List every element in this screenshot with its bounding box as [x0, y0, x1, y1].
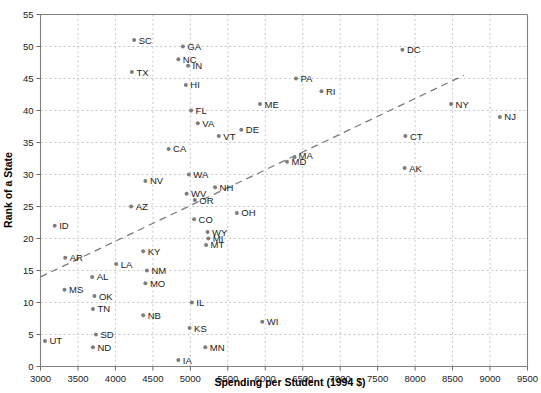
- point-marker: [145, 269, 149, 273]
- data-point[interactable]: KY: [141, 246, 161, 257]
- data-point[interactable]: WA: [187, 169, 209, 180]
- data-point[interactable]: SC: [132, 35, 152, 46]
- plot-svg: 0510152025303540455055300035004000450050…: [0, 0, 541, 393]
- data-point[interactable]: MT: [204, 239, 224, 250]
- data-point[interactable]: NJ: [498, 111, 516, 122]
- point-label: HI: [190, 79, 200, 90]
- point-marker: [294, 77, 298, 81]
- point-marker: [400, 48, 404, 52]
- x-tick-label: 3000: [30, 373, 51, 384]
- data-point[interactable]: ME: [258, 99, 279, 110]
- data-point[interactable]: DC: [400, 44, 420, 55]
- point-label: NJ: [504, 111, 516, 122]
- data-point[interactable]: PA: [294, 73, 313, 84]
- point-marker: [498, 115, 502, 119]
- data-point[interactable]: VA: [196, 118, 215, 129]
- data-point[interactable]: AL: [90, 271, 108, 282]
- point-marker: [193, 198, 197, 202]
- data-point[interactable]: MN: [203, 342, 224, 353]
- data-point[interactable]: AZ: [129, 201, 148, 212]
- data-point[interactable]: AK: [403, 163, 423, 174]
- point-marker: [132, 38, 136, 42]
- x-tick-label: 9000: [479, 373, 500, 384]
- point-label: CO: [199, 214, 213, 225]
- x-tick-label: 4000: [105, 373, 126, 384]
- data-point[interactable]: NB: [141, 310, 161, 321]
- point-marker: [91, 307, 95, 311]
- data-point[interactable]: CO: [192, 214, 213, 225]
- data-point[interactable]: OH: [235, 207, 256, 218]
- data-point[interactable]: HI: [184, 79, 200, 90]
- data-point[interactable]: LA: [114, 259, 133, 270]
- point-label: SD: [100, 329, 113, 340]
- x-tick-label: 4500: [142, 373, 163, 384]
- data-point[interactable]: SD: [94, 329, 114, 340]
- point-label: TX: [136, 67, 149, 78]
- point-marker: [143, 179, 147, 183]
- data-point[interactable]: DE: [239, 124, 259, 135]
- point-marker: [449, 102, 453, 106]
- data-point[interactable]: NY: [449, 99, 469, 110]
- point-label: NV: [150, 175, 164, 186]
- point-marker: [181, 45, 185, 49]
- point-label: FL: [196, 105, 207, 116]
- point-marker: [94, 333, 98, 337]
- data-point[interactable]: MS: [62, 284, 83, 295]
- point-label: MT: [211, 239, 225, 250]
- point-marker: [319, 89, 323, 93]
- point-label: NY: [456, 99, 470, 110]
- point-label: OR: [199, 195, 213, 206]
- point-label: UT: [49, 335, 62, 346]
- y-tick-label: 10: [23, 297, 34, 308]
- data-point[interactable]: NH: [213, 182, 233, 193]
- point-label: VT: [223, 131, 235, 142]
- data-point[interactable]: AR: [63, 252, 83, 263]
- data-point[interactable]: RI: [319, 86, 335, 97]
- point-marker: [91, 345, 95, 349]
- y-tick-label: 5: [28, 329, 33, 340]
- data-point[interactable]: TX: [130, 67, 149, 78]
- point-label: MA: [299, 150, 314, 161]
- data-point[interactable]: GA: [181, 41, 202, 52]
- data-point[interactable]: FL: [189, 105, 207, 116]
- point-marker: [203, 345, 207, 349]
- point-marker: [114, 262, 118, 266]
- trend-line: [41, 75, 464, 277]
- point-label: MO: [150, 278, 165, 289]
- data-point[interactable]: ND: [91, 342, 111, 353]
- x-tick-label: 3500: [67, 373, 88, 384]
- point-label: WI: [267, 316, 279, 327]
- y-tick-label: 50: [23, 41, 34, 52]
- point-label: RI: [326, 86, 336, 97]
- point-marker: [63, 256, 67, 260]
- point-marker: [204, 243, 208, 247]
- point-marker: [62, 288, 66, 292]
- data-point[interactable]: UT: [43, 335, 62, 346]
- data-point[interactable]: WI: [260, 316, 278, 327]
- point-label: IA: [183, 355, 193, 366]
- data-point[interactable]: ID: [53, 220, 69, 231]
- point-label: SC: [139, 35, 152, 46]
- data-point[interactable]: MO: [143, 278, 165, 289]
- x-tick-label: 8000: [405, 373, 426, 384]
- point-marker: [190, 301, 194, 305]
- data-point[interactable]: CT: [403, 131, 422, 142]
- data-point[interactable]: TN: [91, 303, 110, 314]
- x-tick-label: 7500: [367, 373, 388, 384]
- data-point[interactable]: NM: [145, 265, 166, 276]
- point-label: CT: [410, 131, 423, 142]
- data-point[interactable]: CA: [167, 143, 187, 154]
- point-marker: [258, 102, 262, 106]
- point-label: DC: [407, 44, 421, 55]
- grid-lines: [41, 15, 528, 367]
- point-label: NB: [148, 310, 161, 321]
- data-point[interactable]: IA: [176, 355, 192, 366]
- data-point[interactable]: NV: [143, 175, 163, 186]
- data-point[interactable]: OK: [92, 291, 113, 302]
- point-label: IN: [193, 60, 203, 71]
- data-point[interactable]: VT: [217, 131, 236, 142]
- data-point[interactable]: IL: [190, 297, 204, 308]
- point-label: TN: [97, 303, 110, 314]
- x-axis-title: Spending per Student (1994 $): [214, 376, 365, 388]
- point-marker: [189, 109, 193, 113]
